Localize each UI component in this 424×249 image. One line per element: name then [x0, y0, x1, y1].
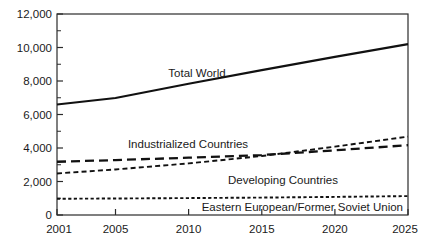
- annotation-total-world: Total World: [168, 67, 225, 79]
- annotation-developing-countries: Developing Countries: [228, 174, 338, 186]
- y-tick-label: 10,000: [17, 42, 52, 54]
- x-tick-label: 2025: [392, 223, 418, 235]
- y-tick-label: 6,000: [23, 109, 52, 121]
- annotation-eastern-european-former-soviet-union: Eastern European/Former Soviet Union: [202, 201, 403, 213]
- x-tick-label: 2020: [322, 223, 348, 235]
- chart-container: 0 2,000 4,000 6,000 8,000 10,000 12,000 …: [0, 0, 424, 249]
- x-tick-label: 2001: [46, 223, 72, 235]
- y-tick-label: 8,000: [23, 75, 52, 87]
- y-tick-label: 4,000: [23, 142, 52, 154]
- series-annotations: Total World Industrialized Countries Dev…: [128, 67, 403, 213]
- series-line-eastern-europe: [57, 196, 408, 199]
- x-tick-label: 2010: [176, 223, 202, 235]
- x-tick-label: 2005: [103, 223, 129, 235]
- annotation-industrialized-countries: Industrialized Countries: [128, 138, 248, 150]
- y-tick-label: 12,000: [17, 8, 52, 20]
- y-axis-major-ticks: [57, 14, 63, 215]
- y-tick-label: 0: [46, 209, 52, 221]
- y-axis-tick-labels: 0 2,000 4,000 6,000 8,000 10,000 12,000: [17, 8, 52, 221]
- x-axis-tick-labels: 2001 2005 2010 2015 2020 2025: [46, 223, 418, 235]
- series-line-total-world: [57, 44, 408, 104]
- line-chart: 0 2,000 4,000 6,000 8,000 10,000 12,000 …: [0, 0, 424, 249]
- y-tick-label: 2,000: [23, 176, 52, 188]
- x-tick-label: 2015: [249, 223, 275, 235]
